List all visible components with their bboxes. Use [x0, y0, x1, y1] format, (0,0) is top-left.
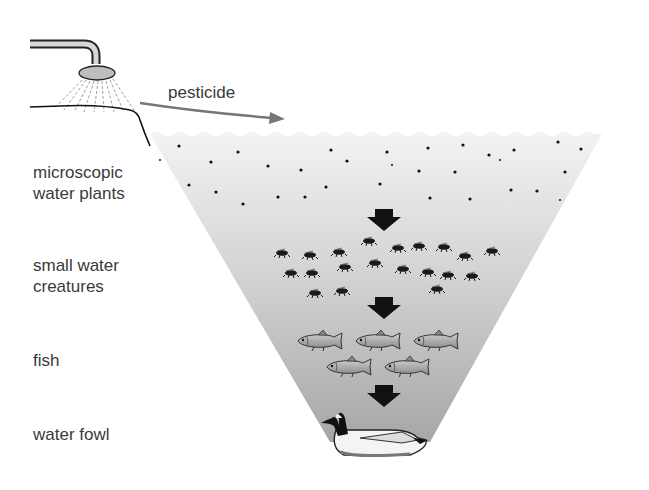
pesticide-label: pesticide — [168, 82, 235, 103]
level-label-plants: microscopic water plants — [33, 162, 125, 204]
label-line: microscopic — [33, 162, 125, 183]
level-label-fish: fish — [33, 350, 59, 371]
pesticide-text: pesticide — [168, 82, 235, 103]
ground-bank-line — [30, 106, 150, 147]
label-line: fish — [33, 350, 59, 371]
food-chain-diagram: pesticide microscopic water plants small… — [0, 0, 649, 490]
curved-arrow-icon — [140, 103, 285, 124]
level-label-fowl: water fowl — [33, 424, 110, 445]
label-line: water fowl — [33, 424, 110, 445]
label-line: creatures — [33, 276, 119, 297]
shower-head-sprayer-icon — [30, 44, 134, 112]
label-line: small water — [33, 255, 119, 276]
label-line: water plants — [33, 183, 125, 204]
level-label-creatures: small water creatures — [33, 255, 119, 297]
diagram-graphics — [0, 0, 649, 490]
